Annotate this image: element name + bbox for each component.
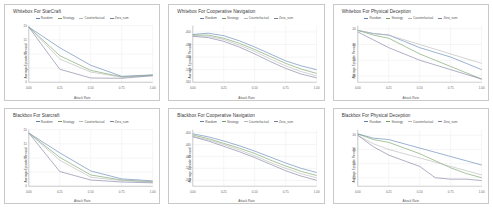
- legend-item-counterfactual[interactable]: Counterfactual: [408, 16, 433, 20]
- chart-panel-blackbox-cooperative-navigation: Blackbox For Cooperative NavigationRando…: [164, 104, 328, 208]
- y-tick-label: -50: [351, 161, 356, 165]
- legend-label-strategy: Strategy: [391, 120, 403, 124]
- x-tick-label: 1.00: [478, 86, 484, 90]
- legend-item-strategy[interactable]: Strategy: [58, 16, 75, 20]
- y-tick-label: -40: [351, 147, 356, 151]
- legend-swatch-random: [200, 121, 204, 122]
- chart-panel-whitebox-physical-deception: Whitebox For Physical DeceptionRandomStr…: [329, 0, 493, 104]
- legend-item-random[interactable]: Random: [364, 120, 381, 124]
- x-tick-label: 0.50: [88, 86, 94, 90]
- y-tick-label: -480: [185, 55, 191, 59]
- legend-swatch-zero_sum: [110, 18, 114, 19]
- chart-title: Whitebox For Cooperative Navigation: [177, 9, 255, 14]
- legend-item-zero_sum[interactable]: Zero_sum: [274, 16, 293, 20]
- chart-panel-blackbox-physical-deception: Blackbox For Physical DeceptionRandomStr…: [329, 104, 493, 208]
- y-tick-label: 15: [24, 141, 28, 145]
- legend-swatch-strategy: [386, 18, 390, 19]
- x-tick-label: 0.25: [57, 189, 63, 193]
- plot-area: Average Episode RewardAttack Rate0.000.2…: [4, 126, 160, 205]
- legend-item-strategy[interactable]: Strategy: [58, 120, 75, 124]
- chart-title: Blackbox For Starcraft: [13, 113, 60, 118]
- legend-item-zero_sum[interactable]: Zero_sum: [274, 120, 293, 124]
- legend-item-zero_sum[interactable]: Zero_sum: [438, 120, 457, 124]
- legend-label-zero_sum: Zero_sum: [443, 16, 457, 20]
- chart-legend: RandomStrategyCounterfactualZero_sum: [168, 16, 324, 20]
- legend-label-random: Random: [41, 16, 53, 20]
- x-tick-label: 0.75: [119, 189, 125, 193]
- chart-title: Whitebox For StarCraft: [13, 9, 61, 14]
- legend-item-zero_sum[interactable]: Zero_sum: [110, 16, 129, 20]
- legend-item-random[interactable]: Random: [200, 16, 217, 20]
- x-tick-label: 0.50: [417, 86, 423, 90]
- legend-item-zero_sum[interactable]: Zero_sum: [110, 120, 129, 124]
- chart-title: Blackbox For Physical Deception: [342, 113, 411, 118]
- chart-panel-blackbox-starcraft: Blackbox For StarcraftRandomStrategyCoun…: [0, 104, 164, 208]
- y-tick-label: -440: [185, 142, 191, 146]
- chart-legend: RandomStrategyCounterfactualZero_sum: [4, 120, 160, 124]
- legend-item-random[interactable]: Random: [364, 16, 381, 20]
- legend-item-counterfactual[interactable]: Counterfactual: [244, 120, 269, 124]
- legend-label-zero_sum: Zero_sum: [279, 16, 293, 20]
- x-tick-label: 1.00: [150, 86, 156, 90]
- legend-item-random[interactable]: Random: [200, 120, 217, 124]
- legend-label-zero_sum: Zero_sum: [279, 120, 293, 124]
- plot-area: Average Episode RewardAttack Rate0.000.2…: [168, 22, 324, 101]
- chart-grid: Whitebox For StarCraftRandomStrategyCoun…: [0, 0, 493, 207]
- legend-item-zero_sum[interactable]: Zero_sum: [438, 16, 457, 20]
- legend-swatch-strategy: [58, 121, 62, 122]
- legend-item-counterfactual[interactable]: Counterfactual: [408, 120, 433, 124]
- x-tick-label: 0.75: [119, 86, 125, 90]
- x-tick-label: 1.00: [314, 189, 320, 193]
- y-tick-label: 15: [24, 38, 28, 42]
- legend-item-strategy[interactable]: Strategy: [386, 16, 403, 20]
- legend-item-counterfactual[interactable]: Counterfactual: [79, 120, 104, 124]
- legend-label-random: Random: [369, 16, 381, 20]
- legend-item-random[interactable]: Random: [36, 16, 53, 20]
- x-tick-label: 1.00: [314, 86, 320, 90]
- panel-content: Blackbox For Cooperative NavigationRando…: [168, 109, 324, 205]
- legend-swatch-counterfactual: [408, 121, 412, 122]
- legend-item-counterfactual[interactable]: Counterfactual: [79, 16, 104, 20]
- legend-item-strategy[interactable]: Strategy: [386, 120, 403, 124]
- y-tick-label: 10: [24, 52, 28, 56]
- legend-item-strategy[interactable]: Strategy: [222, 120, 239, 124]
- y-tick-label: -400: [185, 30, 191, 34]
- legend-swatch-random: [36, 18, 40, 19]
- plot-svg: 0.000.250.500.751.00-30-40-50-60: [333, 22, 489, 101]
- x-tick-label: 0.50: [252, 189, 258, 193]
- x-tick-label: 0.75: [448, 86, 454, 90]
- y-tick-label: 20: [24, 24, 28, 28]
- chart-legend: RandomStrategyCounterfactualZero_sum: [4, 16, 160, 20]
- y-tick-label: -560: [185, 178, 191, 182]
- figure-canvas: Whitebox For StarCraftRandomStrategyCoun…: [0, 0, 493, 207]
- x-tick-label: 0.25: [386, 189, 392, 193]
- y-tick-label: 20: [24, 127, 28, 131]
- legend-swatch-counterfactual: [244, 121, 248, 122]
- x-tick-label: 0.00: [26, 189, 32, 193]
- panel-content: Whitebox For Cooperative NavigationRando…: [168, 5, 324, 101]
- plot-area: Average Episode RewardAttack Rate0.000.2…: [4, 22, 160, 101]
- legend-label-counterfactual: Counterfactual: [249, 16, 269, 20]
- chart-legend: RandomStrategyCounterfactualZero_sum: [333, 16, 489, 20]
- chart-legend: RandomStrategyCounterfactualZero_sum: [168, 120, 324, 124]
- y-tick-label: -560: [185, 80, 191, 84]
- x-tick-label: 1.00: [478, 189, 484, 193]
- x-tick-label: 0.00: [190, 86, 196, 90]
- legend-swatch-strategy: [386, 121, 390, 122]
- x-tick-label: 0.75: [283, 86, 289, 90]
- legend-swatch-strategy: [222, 121, 226, 122]
- x-tick-label: 0.50: [252, 86, 258, 90]
- legend-swatch-strategy: [58, 18, 62, 19]
- plot-svg: 0.000.250.500.751.0005101520: [4, 22, 160, 101]
- legend-label-random: Random: [205, 120, 217, 124]
- legend-item-random[interactable]: Random: [36, 120, 53, 124]
- legend-item-counterfactual[interactable]: Counterfactual: [244, 16, 269, 20]
- legend-label-random: Random: [41, 120, 53, 124]
- legend-swatch-counterfactual: [79, 18, 83, 19]
- plot-svg: 0.000.250.500.751.00-30-40-50-60: [333, 126, 489, 205]
- x-tick-label: 0.00: [26, 86, 32, 90]
- chart-title: Blackbox For Cooperative Navigation: [177, 113, 255, 118]
- y-tick-label: -440: [185, 43, 191, 47]
- legend-swatch-zero_sum: [274, 18, 278, 19]
- legend-item-strategy[interactable]: Strategy: [222, 16, 239, 20]
